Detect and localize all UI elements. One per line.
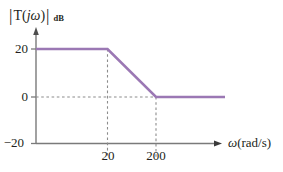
x-axis-title-omega: ω — [228, 135, 237, 150]
y-axis-arrow-icon — [33, 27, 39, 35]
x-tick-label-20: 20 — [91, 149, 125, 162]
y-axis-title-close-paren: ) — [40, 9, 45, 23]
y-axis — [33, 27, 39, 144]
y-tick-label-neg20: −20 — [0, 136, 24, 149]
y-axis-title-bar-right: | — [46, 7, 49, 24]
y-axis-title-t: T( — [13, 9, 26, 23]
x-axis — [36, 141, 222, 147]
y-tick-label-20: 20 — [0, 42, 28, 55]
x-axis-arrow-icon — [214, 141, 222, 147]
y-axis-title-omega: ω — [31, 9, 41, 23]
x-axis-title: ω(rad/s) — [228, 136, 271, 149]
y-axis-title: |T(jω)|dB — [8, 6, 64, 23]
guide-lines — [36, 49, 156, 158]
magnitude-asymptote-curve — [36, 49, 225, 97]
y-axis-title-bar-left: | — [9, 7, 12, 24]
x-tick-label-200: 200 — [139, 149, 173, 162]
y-axis-ticks — [31, 49, 36, 144]
y-axis-title-units: dB — [53, 14, 63, 23]
y-tick-label-0: 0 — [0, 90, 28, 103]
x-axis-title-units: (rad/s) — [237, 135, 271, 150]
bode-plot-figure: |T(jω)|dB ω(rad/s) 20 0 −20 20 200 — [0, 0, 283, 172]
